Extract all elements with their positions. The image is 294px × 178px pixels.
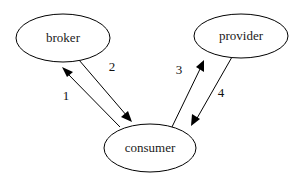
node-provider[interactable]: provider bbox=[194, 14, 288, 58]
edge-2-line bbox=[79, 60, 127, 116]
edge-2-arrowhead bbox=[121, 111, 132, 122]
edge-1-label: 1 bbox=[63, 88, 70, 103]
edge-4-label: 4 bbox=[218, 85, 225, 100]
edge-1-arrowhead bbox=[62, 67, 73, 77]
broker-label: broker bbox=[46, 30, 81, 45]
provider-label: provider bbox=[219, 28, 264, 43]
edge-1-line bbox=[67, 73, 120, 127]
consumer-label: consumer bbox=[125, 140, 176, 155]
node-consumer[interactable]: consumer bbox=[104, 124, 196, 172]
edge-3-label: 3 bbox=[176, 62, 183, 77]
edge-2-label: 2 bbox=[109, 59, 116, 74]
diagram-canvas: 1 2 3 4 broker provider bbox=[0, 0, 294, 178]
node-broker[interactable]: broker bbox=[16, 14, 110, 62]
diagram-svg: 1 2 3 4 broker provider bbox=[0, 0, 294, 178]
